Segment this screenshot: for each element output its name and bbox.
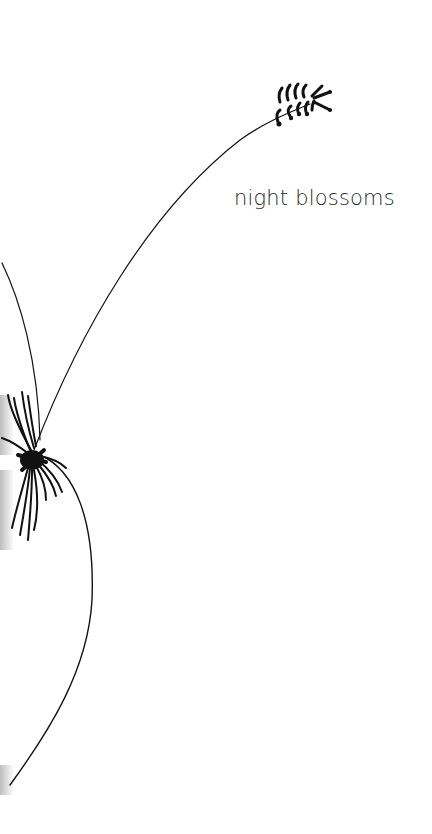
stem-left-arc xyxy=(2,263,40,440)
sprig-icon xyxy=(277,84,330,122)
title-text: night blossoms xyxy=(234,186,395,210)
stem-lower-arc xyxy=(10,455,92,785)
stem-long xyxy=(34,104,310,450)
night-blossoms-illustration xyxy=(0,0,432,834)
